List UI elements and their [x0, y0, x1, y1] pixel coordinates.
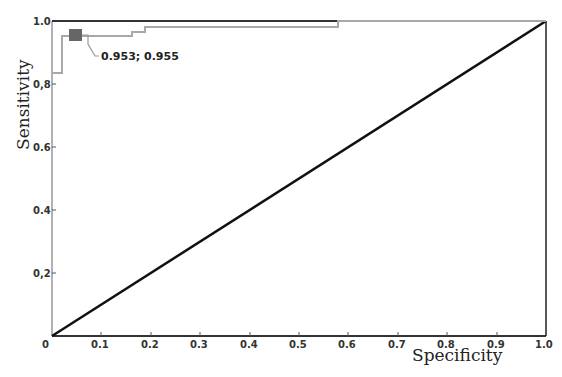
y-tick-0.2: 0,2: [33, 268, 51, 279]
cutoff-marker: [69, 29, 82, 41]
roc-curve: [52, 21, 546, 73]
x-tick-0.2: 0.2: [141, 339, 159, 350]
reference-diagonal-line: [52, 21, 546, 336]
roc-chart: 0,2 0.4 0.6 0,8 1.0 0 0.1 0.2 0.3 0.4 0.…: [0, 0, 562, 377]
y-tick-0.4: 0.4: [33, 205, 51, 216]
y-tick-0.8: 0,8: [33, 79, 51, 90]
x-axis-title: Specificity: [412, 345, 503, 365]
x-tick-0.4: 0.4: [240, 339, 258, 350]
x-tick-0.1: 0.1: [91, 339, 109, 350]
chart-svg: 0,2 0.4 0.6 0,8 1.0 0 0.1 0.2 0.3 0.4 0.…: [0, 0, 562, 377]
cutoff-annotation: 0.953; 0.955: [101, 50, 179, 63]
x-tick-0.3: 0.3: [190, 339, 208, 350]
x-tick-0.6: 0.6: [338, 339, 356, 350]
y-tick-1.0: 1.0: [33, 16, 51, 27]
x-tick-0: 0: [42, 339, 49, 350]
y-axis-title: Sensitivity: [13, 59, 33, 150]
x-tick-1.0: 1.0: [535, 339, 553, 350]
x-tick-0.7: 0.7: [388, 339, 406, 350]
x-tick-0.5: 0.5: [289, 339, 307, 350]
annotation-leader: [82, 35, 99, 56]
y-tick-0.6: 0.6: [33, 142, 51, 153]
